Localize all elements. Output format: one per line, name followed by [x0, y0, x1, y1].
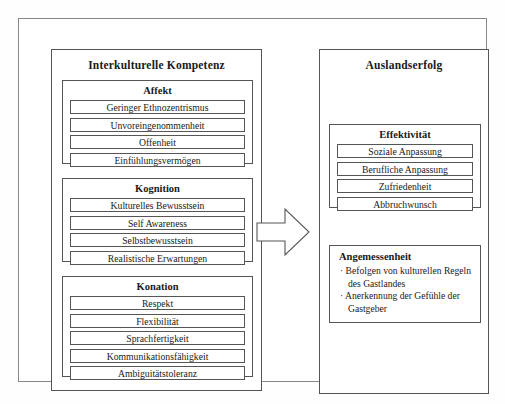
list-item: Berufliche Anpassung [337, 162, 473, 176]
list-item: Geringer Ethnozentrismus [70, 100, 245, 114]
list-item: Kulturelles Bewusstsein [70, 198, 245, 212]
list-item: Ambiguitätstoleranz [70, 366, 245, 380]
group-title-kognition: Kognition [70, 183, 245, 194]
list-item: Flexibilität [70, 314, 245, 328]
list-item: Zufriedenheit [337, 179, 473, 193]
group-title-konation: Konation [70, 281, 245, 292]
panel-interkulturelle-kompetenz: Interkulturelle Kompetenz Affekt Geringe… [51, 49, 262, 391]
panel-auslandserfolg: Auslandserfolg Effektivität Soziale Anpa… [319, 49, 489, 394]
diagram-frame: Interkulturelle Kompetenz Affekt Geringe… [18, 18, 487, 382]
bullet-item-continuation: Gastgeber [338, 303, 473, 316]
right-block-arrow-icon [255, 205, 311, 261]
list-item: Kommunikationsfähigkeit [70, 349, 245, 363]
bullet-list: · Befolgen von kulturellen Regeln des Ga… [338, 265, 473, 315]
list-item: Self Awareness [70, 216, 245, 230]
group-konation: Konation Respekt Flexibilität Sprachfert… [62, 276, 253, 377]
group-angemessenheit: Angemessenheit · Befolgen von kulturelle… [329, 245, 481, 323]
list-item: Unvoreingenommenheit [70, 118, 245, 132]
list-item: Abbruchwunsch [337, 197, 473, 211]
group-kognition: Kognition Kulturelles Bewusstsein Self A… [62, 178, 253, 262]
group-affekt: Affekt Geringer Ethnozentrismus Unvorein… [62, 80, 253, 164]
group-title-affekt: Affekt [70, 85, 245, 96]
list-item: Respekt [70, 296, 245, 310]
group-title-angemessenheit: Angemessenheit [339, 251, 473, 262]
bullet-item: · Befolgen von kulturellen Regeln [338, 265, 473, 278]
list-item: Selbstbewusstsein [70, 233, 245, 247]
list-item: Realistische Erwartungen [70, 251, 245, 265]
panel-title-right: Auslandserfolg [320, 59, 488, 71]
list-item: Sprachfertigkeit [70, 331, 245, 345]
group-title-effektivitaet: Effektivität [337, 129, 473, 140]
list-item: Offenheit [70, 135, 245, 149]
panel-title-left: Interkulturelle Kompetenz [52, 59, 261, 71]
list-item: Soziale Anpassung [337, 144, 473, 158]
bullet-item: · Anerkennung der Gefühle der [338, 290, 473, 303]
bullet-item-continuation: des Gastlandes [338, 278, 473, 291]
group-effektivitaet: Effektivität Soziale Anpassung Beruflich… [329, 124, 481, 208]
list-item: Einfühlungsvermögen [70, 153, 245, 167]
